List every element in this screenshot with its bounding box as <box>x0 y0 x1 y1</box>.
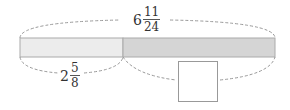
answer-box[interactable] <box>178 61 218 102</box>
left-segment <box>20 38 123 57</box>
right-segment <box>123 38 275 57</box>
total-whole: 6 <box>133 12 142 28</box>
total-brace <box>20 20 120 38</box>
total-length-label: 6 11 24 <box>133 6 160 33</box>
total-fraction: 11 24 <box>143 6 160 33</box>
unknown-brace <box>123 57 176 80</box>
part-whole: 2 <box>60 68 69 84</box>
part-brace <box>20 57 58 73</box>
part-length-label: 2 5 8 <box>60 62 80 89</box>
part-fraction: 5 8 <box>70 62 80 89</box>
